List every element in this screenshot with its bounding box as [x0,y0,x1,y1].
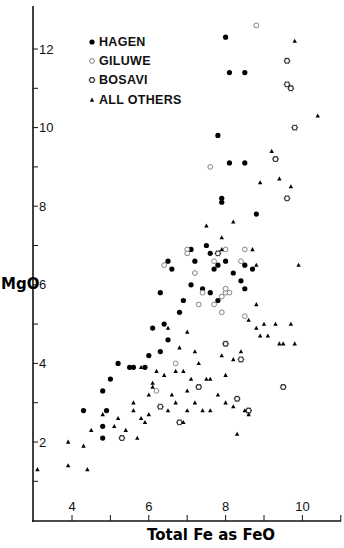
legend-label-hagen: HAGEN [99,35,146,49]
giluwe-point [227,290,232,295]
bosavi-point [291,125,298,131]
all-others-point [181,369,185,373]
all-others-point [239,349,243,353]
hagen-point [208,251,213,256]
all-others-point [200,408,204,412]
hagen-point [242,70,247,75]
all-others-point [223,400,227,404]
giluwe-point [242,314,247,319]
giluwe-point [154,389,159,394]
bosavi-point [280,384,287,390]
hagen-point [181,298,186,303]
all-others-point [150,385,154,389]
all-others-point [170,392,174,396]
legend-label-giluwe: GILUWE [99,54,151,68]
bosavi-point [195,384,202,390]
legend-label-bosavi: BOSAVI [99,73,148,87]
data-points [35,23,320,471]
giluwe-point [254,23,259,28]
all-others-point [101,412,105,416]
hagen-point [215,263,220,268]
all-others-point [66,440,70,444]
all-others-point [254,326,258,330]
hagen-point [223,35,228,40]
hagen-point [208,290,213,295]
legend-giluwe-icon [90,59,95,64]
bosavi-point [119,435,126,441]
giluwe-point [223,286,228,291]
bosavi-point [176,419,183,425]
all-others-point [258,333,262,337]
all-others-point [185,389,189,393]
giluwe-point [219,310,224,315]
hagen-point [211,266,216,271]
x-tick-label: 8 [222,499,229,514]
hagen-point [242,286,247,291]
hagen-point [165,259,170,264]
all-others-point [289,322,293,326]
hagen-point [146,353,151,358]
axes: 4681024681012 [32,6,341,522]
giluwe-point [173,361,178,366]
all-others-point [220,353,224,357]
y-tick-label: 4 [39,356,46,371]
bosavi-point [215,250,222,256]
x-tick-label: 10 [295,499,309,514]
hagen-point [188,282,193,287]
hagen-point [250,266,255,271]
bosavi-point [222,341,229,347]
hagen-point [104,408,109,413]
all-others-point [262,322,266,326]
all-others-point [254,263,258,267]
hagen-point [100,424,105,429]
hagen-point [219,200,224,205]
giluwe-point [192,271,197,276]
all-others-point [289,184,293,188]
giluwe-point [212,302,217,307]
y-tick-label: 8 [39,199,46,214]
hagen-point [254,211,259,216]
all-others-point [124,428,128,432]
y-axis-title: MgO [1,275,39,293]
hagen-point [242,263,247,268]
all-others-point [220,235,224,239]
legend-hagen-icon [89,39,94,44]
all-others-point [66,463,70,467]
hagen-point [238,278,243,283]
all-others-point [81,444,85,448]
legend: HAGENGILUWEBOSAVIALL OTHERS [89,35,182,107]
giluwe-point [200,290,205,295]
all-others-point [131,408,135,412]
all-others-point [250,247,254,251]
all-others-point [296,263,300,267]
all-others-point [193,349,197,353]
bosavi-point [238,357,245,363]
hagen-point [227,70,232,75]
hagen-point [142,365,147,370]
all-others-point [162,373,166,377]
all-others-point [316,113,320,117]
x-tick-label: 6 [145,499,152,514]
y-tick-label: 6 [39,277,46,292]
all-others-point [150,381,154,385]
all-others-point [166,326,170,330]
scatter-chart: 4681024681012 HAGENGILUWEBOSAVIALL OTHER… [0,0,344,548]
hagen-point [204,243,209,248]
giluwe-point [196,302,201,307]
hagen-point [192,259,197,264]
giluwe-point [239,259,244,264]
hagen-point [231,270,236,275]
all-others-point [173,369,177,373]
all-others-point [208,408,212,412]
y-tick-label: 12 [39,42,53,57]
giluwe-point [185,251,190,256]
all-others-point [216,392,220,396]
all-others-point [277,176,281,180]
all-others-point [143,420,147,424]
hagen-point [162,322,167,327]
x-tick-label: 4 [68,499,75,514]
all-others-point [231,357,235,361]
hagen-point [242,160,247,165]
hagen-point [115,361,120,366]
all-others-point [116,416,120,420]
